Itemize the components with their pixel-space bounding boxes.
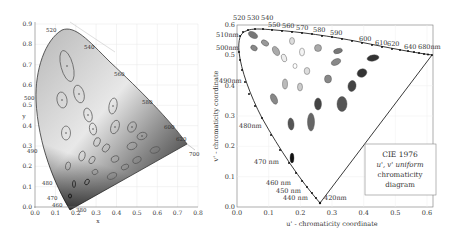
svg-text:0.1: 0.1 xyxy=(22,183,32,190)
svg-text:580: 580 xyxy=(142,99,153,105)
svg-text:520: 520 xyxy=(46,27,57,33)
right-legend-box: CIE 1976 u', v' uniform chromaticity dia… xyxy=(365,144,436,195)
left-chart: 0.0 0.1 0.2 0.3 0.4 0.5 0.6 0.7 0.8 x 0.… xyxy=(21,20,203,224)
svg-text:0.1: 0.1 xyxy=(264,209,274,217)
svg-text:0.7: 0.7 xyxy=(22,61,32,68)
svg-text:460 nm: 460 nm xyxy=(266,179,291,187)
svg-text:0.3: 0.3 xyxy=(91,209,101,216)
svg-text:0.6: 0.6 xyxy=(225,21,235,29)
svg-text:0.8: 0.8 xyxy=(193,209,203,216)
svg-text:0.0: 0.0 xyxy=(30,209,40,216)
svg-text:560: 560 xyxy=(282,22,294,30)
svg-text:0.3: 0.3 xyxy=(327,209,337,217)
svg-text:540: 540 xyxy=(84,44,95,50)
svg-text:380: 380 xyxy=(76,207,87,213)
svg-text:0.7: 0.7 xyxy=(173,209,183,216)
svg-text:0.4: 0.4 xyxy=(112,209,122,216)
svg-text:490: 490 xyxy=(27,148,38,154)
svg-text:0.2: 0.2 xyxy=(295,209,305,217)
svg-text:0.4: 0.4 xyxy=(22,122,32,129)
svg-text:0.5: 0.5 xyxy=(225,51,235,59)
svg-text:520: 520 xyxy=(233,14,245,22)
svg-text:diagram: diagram xyxy=(385,181,415,189)
svg-text:700: 700 xyxy=(189,151,200,157)
svg-text:chromaticity: chromaticity xyxy=(378,171,423,179)
svg-text:0.5: 0.5 xyxy=(132,209,142,216)
right-chart: 0.0 0.1 0.2 0.3 0.4 0.5 0.6 v' - chromat… xyxy=(212,14,441,228)
svg-text:0.9: 0.9 xyxy=(22,20,32,27)
svg-text:0.0: 0.0 xyxy=(232,209,242,217)
svg-text:480nm: 480nm xyxy=(239,122,262,130)
right-x-tick-labels: 0.0 0.1 0.2 0.3 0.4 0.5 0.6 xyxy=(232,209,432,217)
svg-text:0.6: 0.6 xyxy=(153,209,163,216)
svg-text:0.1: 0.1 xyxy=(51,209,61,216)
svg-text:0.6: 0.6 xyxy=(422,209,432,217)
svg-text:0.1: 0.1 xyxy=(225,173,235,181)
left-x-tick-labels: 0.0 0.1 0.2 0.3 0.4 0.5 0.6 0.7 0.8 xyxy=(30,209,203,216)
svg-text:0.6: 0.6 xyxy=(22,81,32,88)
svg-text:550: 550 xyxy=(268,21,280,29)
svg-text:640: 640 xyxy=(404,43,416,51)
svg-text:600: 600 xyxy=(359,35,371,43)
svg-text:0.5: 0.5 xyxy=(390,209,400,217)
svg-text:440 nm: 440 nm xyxy=(283,194,308,202)
right-x-axis-label: u' - chromaticity coordinate xyxy=(286,220,377,228)
svg-text:680nm: 680nm xyxy=(418,43,441,51)
chromaticity-figure: 0.0 0.1 0.2 0.3 0.4 0.5 0.6 0.7 0.8 x 0.… xyxy=(0,0,458,237)
svg-text:590: 590 xyxy=(330,29,342,37)
svg-text:470: 470 xyxy=(47,195,58,201)
svg-text:480: 480 xyxy=(42,180,53,186)
svg-text:620: 620 xyxy=(387,40,399,48)
svg-text:0.2: 0.2 xyxy=(22,162,32,169)
svg-text:510nm: 510nm xyxy=(216,31,239,39)
svg-text:570: 570 xyxy=(296,24,308,32)
left-y-axis-label: y xyxy=(21,112,26,120)
svg-text:0.2: 0.2 xyxy=(225,142,235,150)
svg-text:580: 580 xyxy=(313,26,325,34)
svg-text:0.0: 0.0 xyxy=(22,203,32,210)
svg-text:600: 600 xyxy=(164,124,175,130)
svg-text:420nm: 420nm xyxy=(324,194,347,202)
svg-text:530: 530 xyxy=(247,14,259,22)
svg-text:490nm: 490nm xyxy=(219,77,242,85)
svg-text:0.3: 0.3 xyxy=(225,112,235,120)
left-x-axis-label: x xyxy=(96,217,100,224)
svg-text:620: 620 xyxy=(176,136,187,142)
svg-text:u', v' uniform: u', v' uniform xyxy=(376,161,423,169)
svg-text:CIE 1976: CIE 1976 xyxy=(382,150,418,159)
svg-text:610: 610 xyxy=(375,39,387,47)
svg-text:560: 560 xyxy=(114,71,125,77)
svg-text:460: 460 xyxy=(52,202,63,208)
svg-text:0.5: 0.5 xyxy=(22,101,32,108)
svg-text:0.4: 0.4 xyxy=(359,209,369,217)
svg-text:500nm: 500nm xyxy=(216,44,239,52)
svg-text:470 nm: 470 nm xyxy=(254,158,279,166)
svg-text:500: 500 xyxy=(24,95,35,101)
svg-text:0.8: 0.8 xyxy=(22,40,32,47)
